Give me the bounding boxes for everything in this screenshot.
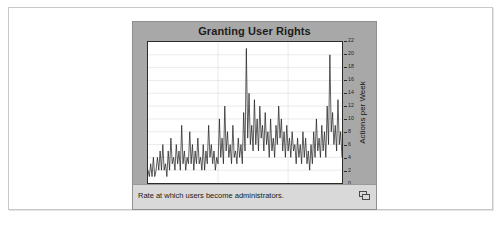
y-tick-mark <box>344 171 347 172</box>
caption-bar: Rate at which users become administrator… <box>133 184 376 209</box>
gridlines <box>148 42 342 183</box>
y-tick-label: 8 <box>348 129 351 134</box>
y-tick-mark <box>344 41 347 42</box>
chart-card[interactable]: Granting User Rights (nearly all are cre… <box>132 21 377 210</box>
y-tick-mark <box>344 54 347 55</box>
y-tick-label: 12 <box>348 103 354 108</box>
plot-area[interactable] <box>147 41 343 184</box>
y-tick-mark <box>344 106 347 107</box>
y-tick-label: 2 <box>348 168 351 173</box>
chart-title: Granting User Rights <box>133 25 376 37</box>
caption-text: Rate at which users become administrator… <box>138 191 284 200</box>
y-axis-title: Actions per Week <box>355 41 369 184</box>
y-tick-label: 20 <box>348 51 354 56</box>
series-line-actions-per-week <box>148 42 342 183</box>
plot-wrapper: (nearly all are creating new administrat… <box>147 41 343 184</box>
y-tick-mark <box>344 145 347 146</box>
y-axis-title-label: Actions per Week <box>358 81 367 144</box>
y-tick-label: 16 <box>348 77 354 82</box>
y-tick-label: 22 <box>348 38 354 43</box>
y-tick-label: 4 <box>348 155 351 160</box>
y-tick-label: 6 <box>348 142 351 147</box>
document-page: Granting User Rights (nearly all are cre… <box>8 7 493 210</box>
y-tick-mark <box>344 119 347 120</box>
y-tick-label: 18 <box>348 64 354 69</box>
y-tick-mark <box>344 67 347 68</box>
y-tick-mark <box>344 158 347 159</box>
y-tick-label: 10 <box>348 116 354 121</box>
y-tick-mark <box>344 132 347 133</box>
y-tick-mark <box>344 80 347 81</box>
y-tick-label: 14 <box>348 90 354 95</box>
screen-resize-icon[interactable] <box>359 191 370 200</box>
y-tick-mark <box>344 93 347 94</box>
